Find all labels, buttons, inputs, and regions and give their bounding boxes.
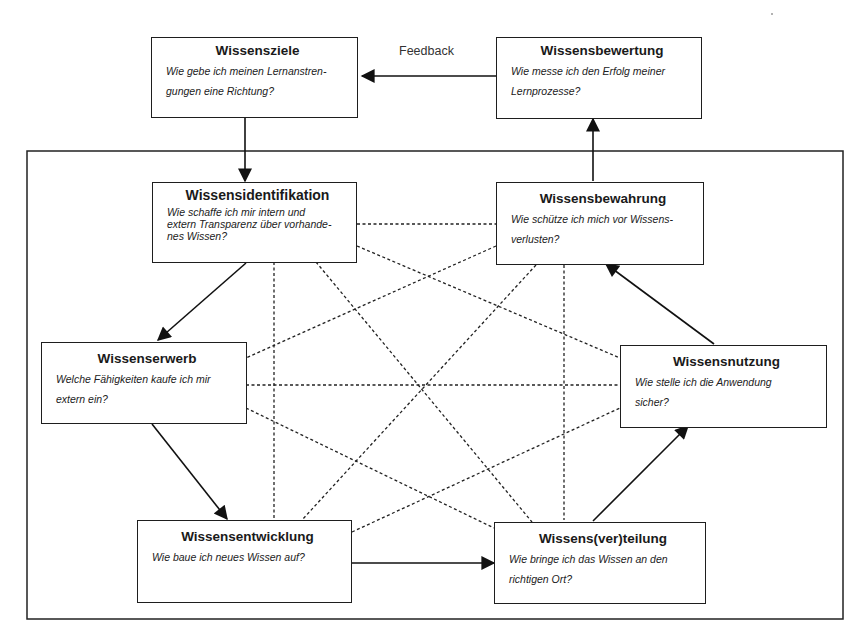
box-question-line: Welche Fähigkeiten kaufe ich mir [56,369,238,389]
box-title: Wissensbewertung [511,42,693,59]
box-title: Wissensbewahrung [511,190,695,207]
box-title: Wissenserwerb [56,350,238,367]
knowledge-management-diagram: Feedback Wissensziele Wie gebe ich meine… [0,0,865,644]
box-wissensverteilung: Wissens(ver)teilung Wie bringe ich das W… [494,522,706,604]
box-wissensbewahrung: Wissensbewahrung Wie schütze ich mich vo… [496,182,704,265]
box-question-line: Wie schaffe ich mir intern und [167,206,348,218]
box-question-line: Wie stelle ich die Anwendung [635,372,818,392]
box-wissensidentifikation: Wissensidentifikation Wie schaffe ich mi… [152,182,357,263]
scan-speck [771,13,773,15]
box-question-line: Wie bringe ich das Wissen an den [509,549,697,569]
box-question-line: Lernprozesse? [511,81,693,101]
box-question-line: verlusten? [511,229,695,249]
feedback-label: Feedback [399,44,454,58]
box-title: Wissensentwicklung [152,528,343,545]
box-question-line: extern ein? [56,389,238,409]
box-question-line: Wie baue ich neues Wissen auf? [152,547,343,567]
box-title: Wissensidentifikation [167,187,348,204]
connector-lines [0,0,865,644]
box-wissensnutzung: Wissensnutzung Wie stelle ich die Anwend… [620,345,827,428]
box-question-line: gungen eine Richtung? [166,81,349,101]
dashed-interconnections [246,224,620,532]
box-wissensbewertung: Wissensbewertung Wie messe ich den Erfol… [496,37,702,119]
box-title: Wissensnutzung [635,353,818,370]
box-question-line: richtigen Ort? [509,569,697,589]
box-question-line: extern Transparenz über vorhande- [167,218,348,230]
box-question-line: Wie gebe ich meinen Lernanstren- [166,61,349,81]
solid-arrows [152,76,714,563]
box-question-line: sicher? [635,392,818,412]
box-title: Wissens(ver)teilung [509,530,697,547]
box-wissenserwerb: Wissenserwerb Welche Fähigkeiten kaufe i… [41,342,247,424]
box-title: Wissensziele [166,42,349,59]
box-wissensentwicklung: Wissensentwicklung Wie baue ich neues Wi… [137,520,352,603]
box-question-line: Wie messe ich den Erfolg meiner [511,61,693,81]
box-question-line: Wie schütze ich mich vor Wissens- [511,209,695,229]
box-question-line: nes Wissen? [167,230,348,242]
box-wissensziele: Wissensziele Wie gebe ich meinen Lernans… [151,37,358,118]
